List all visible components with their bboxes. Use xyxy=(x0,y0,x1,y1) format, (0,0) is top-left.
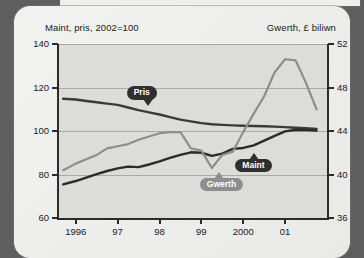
series-line-pris xyxy=(63,99,316,129)
callout-pris-label: Pris xyxy=(134,87,150,97)
right-axis-title: Gwerth, £ biliwn xyxy=(267,22,336,33)
left-axis-title: Maint, pris, 2002=100 xyxy=(45,22,139,33)
x-tick-label: 2000 xyxy=(233,226,254,237)
y-tick-label-right: 36 xyxy=(337,212,348,223)
x-tick-label: 01 xyxy=(280,226,291,237)
y-axis-right-line xyxy=(327,44,329,218)
callout-maint-label: Maint xyxy=(242,160,264,170)
y-tick-label-right: 48 xyxy=(337,82,348,93)
callout-pris-tail xyxy=(143,99,153,106)
y-tick-label-left: 60 xyxy=(38,212,49,223)
y-tick-label-left: 120 xyxy=(33,82,49,93)
callout-maint-tail xyxy=(249,153,259,160)
x-tick-label: 1996 xyxy=(65,226,86,237)
plot-area: 6080100120140 3640444852 199697989920000… xyxy=(59,44,327,218)
callout-gwerth: Gwerth xyxy=(200,178,243,191)
x-tick-label: 99 xyxy=(196,226,207,237)
y-axis-left-line xyxy=(57,44,59,218)
series-line-maint xyxy=(63,130,316,185)
chart-panel: Maint, pris, 2002=100 Gwerth, £ biliwn 6… xyxy=(14,6,350,258)
y-tick-label-right: 52 xyxy=(337,38,348,49)
y-tick-label-right: 44 xyxy=(337,125,348,136)
x-axis-line xyxy=(57,218,329,220)
callout-gwerth-label: Gwerth xyxy=(207,179,236,189)
callout-maint: Maint xyxy=(235,159,271,172)
y-tick-label-left: 80 xyxy=(38,169,49,180)
y-tick-label-right: 40 xyxy=(337,169,348,180)
callout-pris: Pris xyxy=(127,86,157,99)
y-tick-label-left: 140 xyxy=(33,38,49,49)
x-tick-label: 98 xyxy=(154,226,165,237)
callout-gwerth-tail xyxy=(214,172,224,179)
data-series xyxy=(59,44,327,218)
y-tick-label-left: 100 xyxy=(33,125,49,136)
x-tick-label: 97 xyxy=(112,226,123,237)
